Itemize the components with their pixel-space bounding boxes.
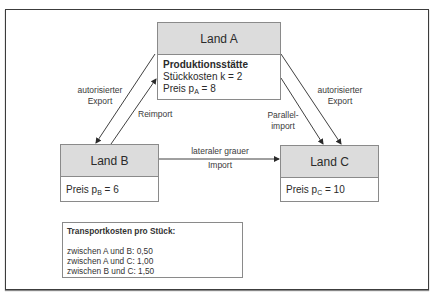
price-c: Preis pC = 10 (281, 178, 378, 199)
unit-cost: Stückkosten k = 2 (163, 71, 275, 83)
country-box-b: Land B Preis pB = 6 (60, 144, 159, 202)
label-authorized-export-right: autorisierter Export (310, 85, 370, 107)
label-reimport: Reimport (138, 109, 172, 120)
country-box-a: Land A Produktionsstätte Stückkosten k =… (157, 22, 281, 100)
country-c-title: Land C (281, 146, 378, 178)
transport-cost-item: zwischen A und C: 1,00 (67, 256, 238, 266)
production-site-label: Produktionsstätte (163, 59, 275, 71)
transport-costs-box: Transportkosten pro Stück: zwischen A un… (62, 222, 243, 278)
price-b: Preis pB = 6 (61, 177, 158, 199)
label-parallel-import: Parallel- import (258, 110, 308, 132)
price-a: Preis pA = 8 (163, 83, 275, 95)
country-a-title: Land A (158, 23, 280, 55)
label-lateral-grey-import: lateraler grauer Import (180, 146, 260, 171)
transport-cost-item: zwischen B und C: 1,50 (67, 266, 238, 276)
country-b-title: Land B (61, 145, 158, 177)
label-authorized-export-left: autorisierter Export (70, 85, 130, 107)
transport-costs-title: Transportkosten pro Stück: (67, 226, 238, 236)
country-box-c: Land C Preis pC = 10 (280, 145, 379, 202)
transport-cost-item: zwischen A und B: 0,50 (67, 246, 238, 256)
